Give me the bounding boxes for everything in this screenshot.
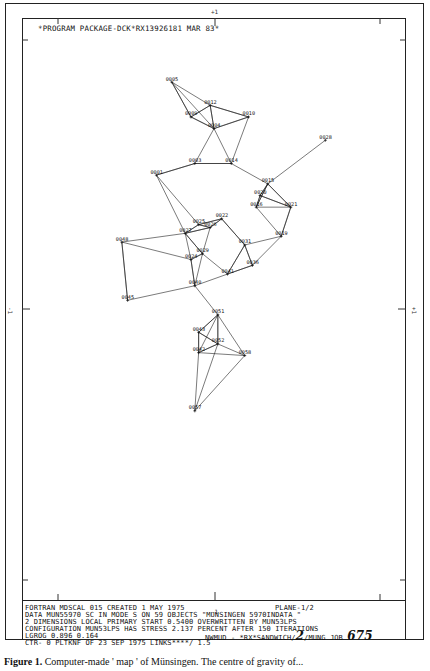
point-label: 0040 xyxy=(189,279,202,285)
point-label: 0057 xyxy=(189,404,202,410)
right-axis-mark: +1 xyxy=(411,307,418,315)
data-point: 0041 xyxy=(221,268,234,276)
data-point: 0029 xyxy=(196,247,209,255)
point-label: 0010 xyxy=(243,110,256,116)
point-label: 0058 xyxy=(239,349,252,355)
point-label: 0027 xyxy=(179,227,192,233)
data-point: 0045 xyxy=(122,294,135,302)
point-label: 0051 xyxy=(212,308,225,314)
info-line-6: CTR- 0 PLTKNF OF 23 SEP 1975 LINKS****/ … xyxy=(25,639,211,647)
caption-text: Computer-made ' map ' of Münsingen. The … xyxy=(45,656,304,667)
point-label: 0015 xyxy=(262,177,275,183)
point-label: 0001 xyxy=(150,169,163,175)
data-point: 0019 xyxy=(275,230,288,238)
info-job-path: NWMUD - *RX*SANDWICH/ xyxy=(205,634,296,642)
point-label: 0036 xyxy=(246,259,259,265)
point-label: 0041 xyxy=(221,268,234,274)
point-label: 0019 xyxy=(275,230,288,236)
data-point: 0010 xyxy=(243,110,256,118)
data-points: 0005001200100009000400140003000100280015… xyxy=(116,76,332,413)
data-point: 0051 xyxy=(212,308,225,316)
point-label: 0028 xyxy=(319,134,332,140)
figure-caption: Figure 1. Computer-made ' map ' of Münsi… xyxy=(4,656,303,667)
data-point: 0022 xyxy=(216,212,229,220)
point-label: 0048 xyxy=(116,236,129,242)
info-job-label: /MUNG JOB xyxy=(304,634,343,642)
data-point: 0026 xyxy=(204,221,217,229)
point-label: 0014 xyxy=(225,157,238,163)
data-point: 0058 xyxy=(239,349,252,357)
left-axis-mark: -1 xyxy=(7,307,14,315)
point-label: 0052 xyxy=(212,337,225,343)
point-label: 0009 xyxy=(185,110,198,116)
data-point: 0001 xyxy=(150,169,163,177)
data-point: 0024 xyxy=(185,253,198,261)
point-label: 0003 xyxy=(189,157,202,163)
info-handwritten-2: 2 xyxy=(296,629,304,643)
point-label: 0026 xyxy=(204,221,217,227)
point-label: 0022 xyxy=(216,212,229,218)
point-label: 0005 xyxy=(166,76,179,82)
neighbour-links xyxy=(122,82,326,411)
info-handwritten-675: 675 xyxy=(347,629,372,643)
point-label: 0045 xyxy=(122,294,135,300)
data-point: 0036 xyxy=(246,259,259,267)
point-label: 0031 xyxy=(239,238,252,244)
point-label: 0024 xyxy=(185,253,198,259)
data-point: 0048 xyxy=(116,236,129,244)
data-point: 0057 xyxy=(189,404,202,412)
data-point: 0028 xyxy=(319,134,332,142)
data-point: 0031 xyxy=(239,238,252,246)
data-point: 0052 xyxy=(212,337,225,345)
point-label: 0021 xyxy=(285,201,298,207)
data-point: 0009 xyxy=(185,110,198,118)
point-label: 0043 xyxy=(193,326,206,332)
point-label: 0029 xyxy=(196,247,209,253)
data-point: 0005 xyxy=(166,76,179,84)
data-point: 0020 xyxy=(254,189,267,197)
data-point: 0043 xyxy=(193,326,206,334)
scatter-plot: +1 -1 -1 +1 0005001200100009000400140003… xyxy=(0,0,430,671)
point-label: 0012 xyxy=(204,99,217,105)
data-point: 0015 xyxy=(262,177,275,185)
caption-label: Figure 1. xyxy=(4,656,42,667)
point-label: 0020 xyxy=(254,189,267,195)
top-axis-mark: +1 xyxy=(211,8,219,15)
data-point: 0012 xyxy=(204,99,217,107)
point-label: 0004 xyxy=(208,122,221,128)
point-label: 0016 xyxy=(250,201,262,207)
data-point: 0004 xyxy=(208,122,221,130)
data-point: 0040 xyxy=(189,279,202,287)
point-label: 0042 xyxy=(193,346,206,352)
